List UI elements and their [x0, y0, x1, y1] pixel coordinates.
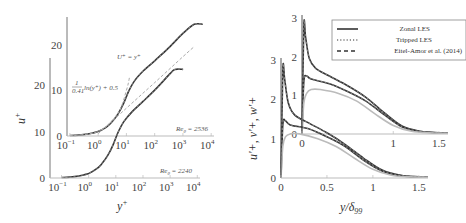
- annotation-log-law: 1 0.41 ln(y⁺) + 0.5: [72, 79, 118, 95]
- x-tick-label: 100: [77, 180, 92, 193]
- annotation-re-2536: Reθ = 2536: [175, 125, 209, 134]
- y-tick-label: 1: [292, 89, 298, 101]
- y-tick-label: 20: [34, 79, 46, 91]
- left-y-axis-label: u+: [13, 113, 28, 124]
- x-tick-label: 0: [299, 137, 305, 149]
- svg-text:Tripped LES: Tripped LES: [396, 36, 432, 44]
- svg-text:0.41: 0.41: [72, 87, 84, 95]
- figure: 10−1100101102103104 01020 U⁺ = y⁺ 1 0.41…: [0, 0, 466, 223]
- y-tick-label: 0: [40, 172, 46, 184]
- y-tick-label: 0: [271, 172, 277, 184]
- x-tick-label: 0: [278, 181, 284, 193]
- svg-text:ln(y⁺) + 0.5: ln(y⁺) + 0.5: [84, 84, 118, 92]
- series-zonal-les: [62, 69, 184, 177]
- y-tick-label: 10: [51, 84, 63, 96]
- series-v: [302, 89, 448, 134]
- x-tick-label: 103: [172, 138, 187, 151]
- y-tick-label: 20: [51, 39, 63, 51]
- y-tick-label: 0: [57, 130, 63, 142]
- svg-text:Reθ = 2240: Reθ = 2240: [159, 167, 193, 176]
- x-tick-label: 0.5: [320, 181, 334, 193]
- left-back-curves: [70, 24, 203, 136]
- left-back-plot: 10−1100101102103104 01020 U⁺ = y⁺ 1 0.41…: [51, 17, 215, 151]
- x-tick-label: 101: [105, 180, 120, 193]
- y-tick-label: 3: [271, 54, 277, 66]
- x-tick-label: 100: [87, 138, 102, 151]
- x-tick-label: 103: [159, 180, 174, 193]
- x-tick-label: 102: [143, 138, 158, 151]
- svg-text:1: 1: [75, 79, 79, 87]
- left-front-y-ticks: 01020: [34, 79, 46, 184]
- annotation-re-2240: Reθ = 2240: [159, 167, 193, 176]
- svg-text:Eitel-Amor et al. (2014): Eitel-Amor et al. (2014): [394, 47, 462, 55]
- y-tick-label: 2: [292, 51, 298, 63]
- legend: Zonal LES Tripped LES Eitel-Amor et al. …: [332, 20, 466, 60]
- x-tick-label: 104: [186, 180, 201, 193]
- y-tick-label: 1: [271, 133, 277, 145]
- right-front-plot: 00.511.5 0123 y/δ99 u'+, v'+, w'+: [246, 54, 428, 216]
- x-tick-label: 101: [115, 138, 130, 151]
- right-x-axis-label: y/δ99: [339, 200, 362, 216]
- x-tick-label: 1.5: [412, 181, 426, 193]
- svg-text:Zonal LES: Zonal LES: [399, 25, 430, 33]
- x-tick-label: 1: [370, 181, 376, 193]
- svg-text:Reθ = 2536: Reθ = 2536: [175, 125, 209, 134]
- series-zonal-les: [70, 24, 203, 136]
- left-front-curves: [62, 69, 184, 177]
- right-y-axis-label: u'+, v'+, w'+: [246, 97, 260, 160]
- x-tick-label: 104: [200, 138, 215, 151]
- y-tick-label: 10: [34, 126, 46, 138]
- left-back-y-ticks: 01020: [51, 39, 63, 142]
- y-tick-label: 2: [271, 93, 277, 105]
- y-tick-label: 3: [292, 12, 298, 24]
- x-tick-label: 1.5: [432, 137, 446, 149]
- left-x-axis-label: y+: [116, 198, 128, 213]
- x-tick-label: 10−1: [48, 180, 67, 193]
- x-tick-label: 102: [132, 180, 147, 193]
- x-tick-label: 1: [391, 137, 397, 149]
- right-back-y-ticks: 0123: [292, 12, 298, 140]
- annotation-linear-law: U⁺ = y⁺: [117, 53, 141, 61]
- right-front-y-ticks: 0123: [271, 54, 277, 184]
